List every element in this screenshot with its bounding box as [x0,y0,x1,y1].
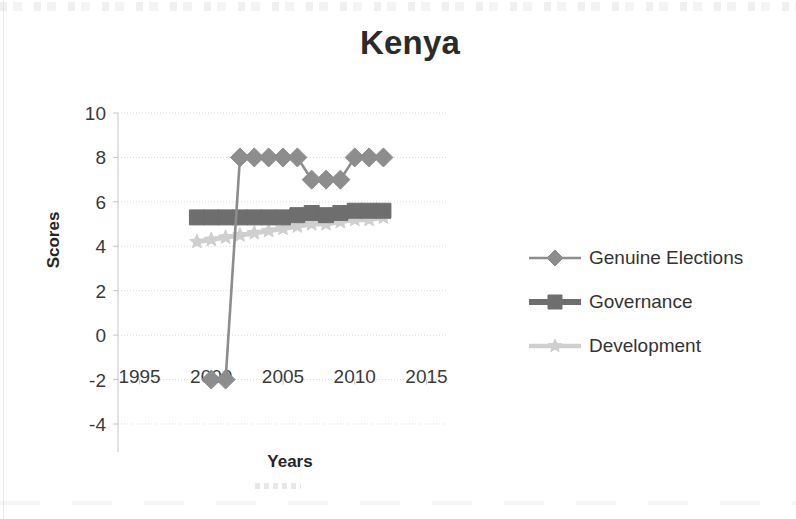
chart-legend: Genuine ElectionsGovernanceDevelopment [527,236,789,368]
x-axis-tick-label: 2005 [262,366,304,387]
square-marker-svg [527,291,583,313]
y-axis-tick-label: -2 [89,370,106,391]
x-axis-tick-label: 1995 [118,366,160,387]
series-line [211,157,383,379]
y-axis-tick-label: 4 [95,236,106,257]
legend-item-label: Genuine Elections [583,247,743,269]
data-point-marker [204,210,219,225]
data-point-marker [333,205,348,220]
square-marker-icon [527,291,583,313]
series-genuine-elections [202,148,393,389]
data-point-marker [347,203,362,218]
chart-page: Kenya Scores Years 1086420-2-41995200020… [0,0,796,519]
legend-item-development[interactable]: Development [527,324,789,368]
data-point-marker [288,148,307,167]
data-point-marker [218,210,233,225]
x-axis-tick-label: 2010 [334,366,376,387]
y-axis-tick-label: 6 [95,192,106,213]
legend-item-genuine-elections[interactable]: Genuine Elections [527,236,789,280]
legend-item-governance[interactable]: Governance [527,280,789,324]
data-point-marker [376,203,391,218]
data-point-marker [276,210,291,225]
data-point-marker [189,210,204,225]
data-point-marker [362,203,377,218]
x-axis-tick-label: 2015 [405,366,447,387]
data-point-marker [218,230,232,244]
legend-marker [548,295,562,309]
data-point-marker [290,208,305,223]
legend-item-label: Development [583,335,701,357]
diamond-marker-svg [527,247,583,269]
y-axis-tick-label: 10 [85,103,106,124]
y-axis-tick-label: 8 [95,147,106,168]
data-point-marker [304,205,319,220]
y-axis-tick-label: 2 [95,281,106,302]
data-point-marker [261,210,276,225]
data-point-marker [319,208,334,223]
legend-marker [548,339,561,352]
data-point-marker [204,232,218,246]
y-axis-tick-label: -4 [89,414,106,435]
legend-marker [547,250,563,266]
diamond-marker-icon [527,247,583,269]
data-point-marker [247,210,262,225]
data-point-marker [247,225,261,239]
legend-item-label: Governance [583,291,693,313]
y-axis-tick-label: 0 [95,325,106,346]
data-point-marker [374,148,393,167]
star-marker-svg [527,335,583,357]
data-point-marker [331,170,350,189]
star-marker-icon [527,335,583,357]
